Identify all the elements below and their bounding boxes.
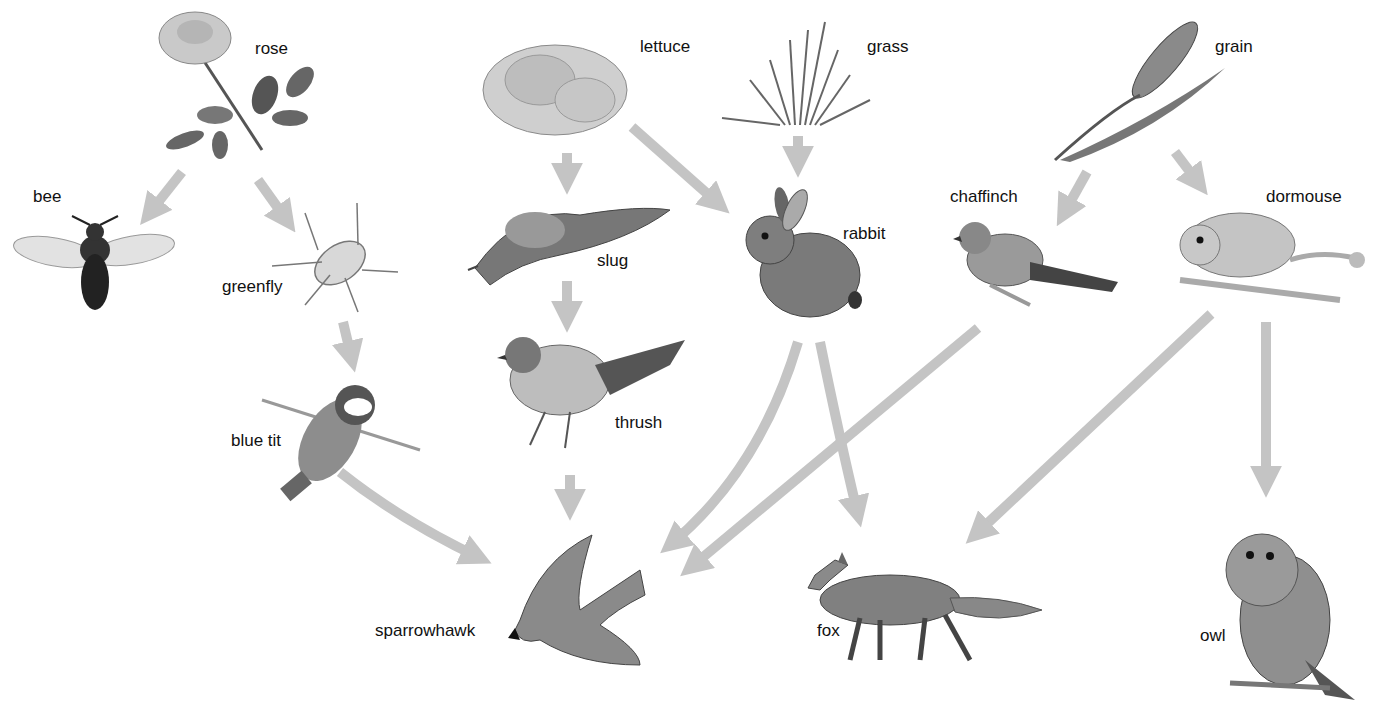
lettuce-illustration: [483, 45, 627, 135]
rabbit-illustration: [746, 186, 862, 317]
label-dormouse: dormouse: [1266, 188, 1342, 205]
label-blue-tit: blue tit: [231, 432, 281, 449]
label-bee: bee: [33, 188, 61, 205]
owl-illustration: [1226, 534, 1355, 700]
label-owl: owl: [1200, 627, 1226, 644]
label-grass: grass: [867, 38, 909, 55]
greenfly-illustration: [272, 203, 398, 312]
blue-tit-illustration: [262, 385, 420, 501]
label-slug: slug: [597, 252, 628, 269]
label-grain: grain: [1215, 38, 1253, 55]
label-fox: fox: [817, 622, 840, 639]
dormouse-illustration: [1180, 213, 1365, 300]
rose-illustration: [159, 12, 319, 159]
organisms-layer: [0, 0, 1379, 715]
label-rose: rose: [255, 40, 288, 57]
label-lettuce: lettuce: [640, 38, 690, 55]
label-rabbit: rabbit: [843, 225, 886, 242]
food-web-diagram: rose lettuce grass grain bee greenfly sl…: [0, 0, 1379, 715]
bee-illustration: [11, 216, 177, 310]
slug-illustration: [468, 208, 670, 285]
grain-illustration: [1055, 14, 1225, 162]
label-thrush: thrush: [615, 414, 662, 431]
label-greenfly: greenfly: [222, 278, 282, 295]
chaffinch-illustration: [953, 222, 1118, 305]
sparrowhawk-illustration: [508, 535, 645, 665]
grass-illustration: [722, 22, 870, 125]
fox-illustration: [808, 552, 1042, 660]
label-sparrowhawk: sparrowhawk: [375, 622, 475, 639]
label-chaffinch: chaffinch: [950, 188, 1018, 205]
